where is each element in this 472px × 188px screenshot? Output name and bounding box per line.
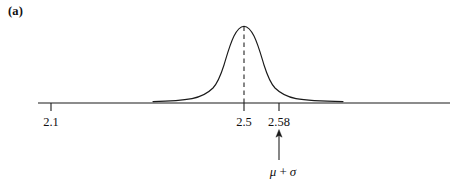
figure-panel-a: (a) 2.1 2.5 2.58 μ+σ [0,0,472,188]
normal-density-curve [153,26,343,101]
mu-symbol: μ [269,164,277,179]
mu-plus-sigma-label: μ+σ [269,164,297,179]
sigma-symbol: σ [290,164,297,179]
plus-operator: + [279,164,286,179]
tick-label-2-58: 2.58 [268,115,290,129]
tick-label-2-1: 2.1 [43,115,59,129]
tick-label-2-5: 2.5 [236,115,252,129]
normal-distribution-plot: 2.1 2.5 2.58 μ+σ [0,0,472,188]
